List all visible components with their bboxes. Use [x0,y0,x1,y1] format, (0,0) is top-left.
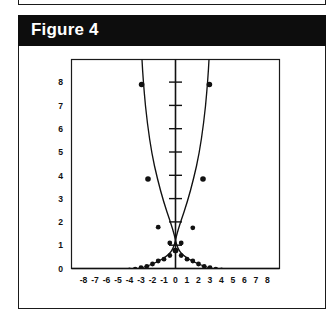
svg-text:5: 5 [58,147,63,157]
plot-area: 0 1 2 3 4 5 6 7 8 -8 -7 -6 -5 -4 [19,46,326,308]
svg-text:6: 6 [58,124,63,134]
svg-text:2: 2 [196,275,201,285]
y-axis-tick-labels: 0 1 2 3 4 5 6 7 8 [58,77,63,273]
svg-text:-1: -1 [160,275,168,285]
svg-text:1: 1 [185,275,190,285]
svg-text:4: 4 [58,171,63,181]
top-partial-box [18,0,326,5]
svg-text:-3: -3 [137,275,145,285]
svg-text:8: 8 [265,275,270,285]
figure-card: Figure 4 [18,15,326,309]
svg-text:-4: -4 [126,275,134,285]
figure-header: Figure 4 [18,15,326,46]
figure-body: 0 1 2 3 4 5 6 7 8 -8 -7 -6 -5 -4 [18,46,326,309]
exponential-curves-chart: 0 1 2 3 4 5 6 7 8 -8 -7 -6 -5 -4 [19,46,326,308]
svg-text:5: 5 [231,275,236,285]
figure-title: Figure 4 [31,20,99,40]
svg-text:0: 0 [173,275,178,285]
svg-text:6: 6 [242,275,247,285]
svg-text:8: 8 [58,77,63,87]
svg-text:4: 4 [219,275,224,285]
svg-text:-8: -8 [80,275,88,285]
svg-text:-5: -5 [114,275,122,285]
svg-text:-6: -6 [103,275,111,285]
svg-text:-7: -7 [91,275,99,285]
svg-text:-2: -2 [149,275,157,285]
svg-text:0: 0 [58,264,63,274]
x-axis-tick-labels: -8 -7 -6 -5 -4 -3 -2 -1 0 1 2 3 4 5 6 7 [80,275,270,285]
svg-text:3: 3 [208,275,213,285]
svg-text:7: 7 [254,275,259,285]
svg-text:7: 7 [58,101,63,111]
svg-text:1: 1 [58,240,63,250]
svg-text:2: 2 [58,217,63,227]
svg-text:3: 3 [58,194,63,204]
